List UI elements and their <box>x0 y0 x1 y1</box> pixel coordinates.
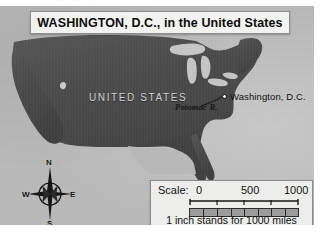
scale-caption: 1 inch stands for 1000 miles <box>151 214 312 225</box>
compass-rose: N S W E <box>22 158 78 225</box>
map-scale-box: Scale: 0 500 1000 <box>150 180 313 225</box>
map-title-text: WASHINGTON, D.C., in the United States <box>37 16 282 30</box>
scale-tick-label-row: Scale: 0 500 1000 <box>158 184 308 198</box>
scale-tick-0: 0 <box>196 184 202 196</box>
compass-east-label: E <box>70 190 75 199</box>
map-plate: UNITED STATES Potomac R. Washington, D.C… <box>0 6 314 225</box>
map-figure: UNITED STATES Potomac R. Washington, D.C… <box>0 0 326 241</box>
compass-west-label: W <box>22 190 30 199</box>
scale-label: Scale: <box>158 184 189 196</box>
scale-ruler-ticks <box>189 199 299 206</box>
map-title-banner: WASHINGTON, D.C., in the United States <box>30 11 290 34</box>
compass-south-label: S <box>47 219 52 225</box>
scale-tick-500: 500 <box>241 184 259 196</box>
city-dot-icon <box>222 94 227 99</box>
scale-tick-1000: 1000 <box>284 184 308 196</box>
compass-north-label: N <box>46 158 52 167</box>
